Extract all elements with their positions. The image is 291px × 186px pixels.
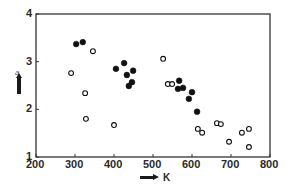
data-point-open <box>195 126 200 131</box>
data-point-open <box>83 91 88 96</box>
x-axis-arrow-icon <box>140 176 154 179</box>
data-point-filled <box>113 66 119 72</box>
data-point-filled <box>73 41 79 47</box>
x-tick-label: 600 <box>182 159 200 170</box>
y-axis-arrow-icon <box>17 77 21 94</box>
data-point-open <box>112 123 117 128</box>
data-point-filled <box>194 109 200 115</box>
scatter-chart: 1234 200300400500600700800 a K <box>0 0 291 186</box>
data-point-open <box>84 116 89 121</box>
x-tick-label: 400 <box>104 159 122 170</box>
data-point-filled <box>186 96 192 102</box>
data-point-filled <box>121 60 127 66</box>
data-point-filled <box>124 72 130 78</box>
data-point-filled <box>176 78 182 84</box>
data-point-filled <box>180 85 186 91</box>
y-tick-label: 3 <box>26 56 32 67</box>
data-point-filled <box>126 83 132 89</box>
data-point-filled <box>80 39 86 45</box>
data-point-open <box>247 145 252 150</box>
data-point-open <box>161 56 166 61</box>
x-tick-label: 700 <box>221 159 239 170</box>
y-tick-label: 4 <box>26 8 32 19</box>
data-point-filled <box>189 89 195 95</box>
x-axis-label: K <box>163 172 170 183</box>
x-tick-label: 800 <box>260 159 278 170</box>
data-point-open <box>218 122 223 127</box>
plot-frame <box>36 14 270 157</box>
x-tick-label: 200 <box>26 159 44 170</box>
data-point-open <box>200 130 205 135</box>
data-point-filled <box>130 68 136 74</box>
data-point-open <box>247 126 252 131</box>
x-tick-label: 500 <box>143 159 161 170</box>
data-point-open <box>91 49 96 54</box>
data-point-open <box>69 71 74 76</box>
data-point-open <box>240 130 245 135</box>
y-tick-label: 2 <box>26 103 32 114</box>
data-point-open <box>170 82 175 87</box>
x-tick-label: 300 <box>65 159 83 170</box>
data-point-filled <box>175 86 181 92</box>
data-point-open <box>227 139 232 144</box>
